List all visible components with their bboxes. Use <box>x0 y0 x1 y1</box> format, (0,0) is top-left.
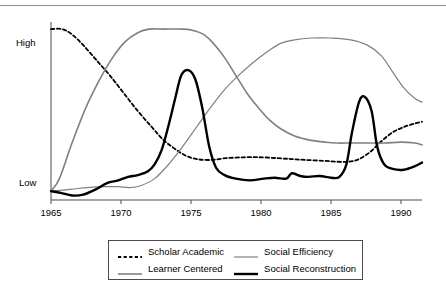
legend-label: Social Efficiency <box>264 246 333 257</box>
chart-page: High Low 196519701975198019851990 Schola… <box>0 0 446 296</box>
legend-item-scholar-academic[interactable]: Scholar Academic <box>117 246 233 257</box>
x-axis-tick-label-1980: 1980 <box>250 207 271 218</box>
axes-group <box>51 22 422 204</box>
series-line-social-reconstruction <box>51 70 422 196</box>
y-axis-high-label: High <box>16 37 36 48</box>
series-line-social-efficiency <box>51 38 422 191</box>
x-axis-tick-label-1985: 1985 <box>320 207 341 218</box>
x-axis-tick-label-1975: 1975 <box>180 207 201 218</box>
legend-label: Learner Centered <box>148 263 222 274</box>
y-axis-low-label: Low <box>19 177 36 188</box>
legend-grid: Scholar AcademicSocial EfficiencyLearner… <box>109 241 362 279</box>
legend-label: Social Reconstruction <box>264 263 356 274</box>
legend-label: Scholar Academic <box>148 246 224 257</box>
x-axis-tick-label-1970: 1970 <box>110 207 131 218</box>
chart-legend: Scholar AcademicSocial EfficiencyLearner… <box>108 240 363 280</box>
legend-item-social-reconstruction[interactable]: Social Reconstruction <box>233 263 356 274</box>
x-axis-tick-label-1990: 1990 <box>390 207 411 218</box>
series-line-learner-centered <box>51 29 422 191</box>
series-group <box>51 29 422 196</box>
legend-item-social-efficiency[interactable]: Social Efficiency <box>233 246 356 257</box>
x-axis-tick-label-1965: 1965 <box>40 207 61 218</box>
series-line-scholar-academic <box>51 29 422 162</box>
legend-item-learner-centered[interactable]: Learner Centered <box>117 263 233 274</box>
